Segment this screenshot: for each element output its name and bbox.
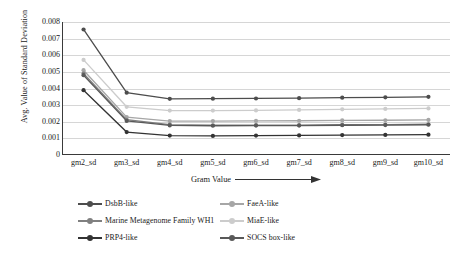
data-point: [81, 58, 85, 62]
x-axis-title-row: Gram Value: [62, 172, 450, 186]
x-axis-tick-label: gm10_sd: [414, 158, 443, 167]
data-point: [254, 133, 258, 137]
data-point: [426, 95, 430, 99]
data-point: [81, 27, 85, 31]
legend-label: DsbB-like: [105, 199, 138, 208]
legend-label: FaeA-like: [247, 199, 279, 208]
x-axis-tick-labels: gm2_sdgm3_sdgm4_sdgm5_sdgm6_sdgm7_sdgm8_…: [62, 158, 450, 172]
data-point: [211, 119, 215, 123]
legend-label: PRP4-like: [105, 233, 138, 242]
data-point: [168, 97, 172, 101]
data-point: [168, 123, 172, 127]
legend-label: Marine Metagenome Family WH1: [105, 216, 214, 225]
y-axis-tick-labels: 00.0010.0020.0030.0040.0050.0060.0070.00…: [16, 0, 60, 155]
y-axis-tick-label: 0.003: [20, 101, 60, 109]
data-point: [383, 133, 387, 137]
x-axis-tick-label: gm6_sd: [243, 158, 268, 167]
legend-item[interactable]: PRP4-like: [78, 233, 220, 242]
series-faea-like: [81, 68, 430, 123]
series-line: [84, 70, 429, 121]
data-point: [297, 119, 301, 123]
legend-label: MiaE-like: [247, 216, 279, 225]
legend-label: SOCS box-like: [247, 233, 295, 242]
x-axis-tick-label: gm7_sd: [286, 158, 311, 167]
data-point: [81, 73, 85, 77]
data-point: [81, 88, 85, 92]
x-axis-tick-label: gm8_sd: [330, 158, 355, 167]
y-axis-tick-label: 0.005: [20, 68, 60, 76]
series-dsbb-like: [81, 27, 430, 101]
data-point: [340, 96, 344, 100]
data-point: [125, 105, 129, 109]
data-point: [211, 97, 215, 101]
x-axis-tick-label: gm3_sd: [114, 158, 139, 167]
data-point: [383, 95, 387, 99]
chart-legend: DsbB-likeFaeA-likeMarine Metagenome Fami…: [78, 195, 378, 246]
data-point: [254, 96, 258, 100]
data-point: [211, 124, 215, 128]
plot-grid-area: [62, 22, 450, 155]
y-axis-tick-label: 0.006: [20, 51, 60, 59]
data-point: [297, 133, 301, 137]
legend-item[interactable]: DsbB-like: [78, 199, 220, 208]
series-line: [84, 29, 429, 98]
data-point: [383, 118, 387, 122]
data-point: [297, 96, 301, 100]
data-point: [168, 133, 172, 137]
legend-item[interactable]: MiaE-like: [220, 216, 378, 225]
data-point: [168, 109, 172, 113]
y-axis-tick-label: 0.001: [20, 134, 60, 142]
legend-item[interactable]: SOCS box-like: [220, 233, 378, 242]
legend-marker-icon: [220, 216, 244, 225]
series-lines: [62, 22, 450, 155]
data-point: [297, 108, 301, 112]
x-axis-title: Gram Value: [191, 175, 231, 184]
y-axis-tick-label: 0.004: [20, 85, 60, 93]
data-point: [125, 91, 129, 95]
data-point: [254, 119, 258, 123]
data-point: [340, 118, 344, 122]
data-point: [211, 109, 215, 113]
legend-item[interactable]: Marine Metagenome Family WH1: [78, 216, 220, 225]
data-point: [125, 130, 129, 134]
legend-item[interactable]: FaeA-like: [220, 199, 378, 208]
legend-marker-icon: [78, 216, 102, 225]
data-point: [340, 133, 344, 137]
data-point: [426, 133, 430, 137]
x-axis-tick-label: gm4_sd: [157, 158, 182, 167]
data-point: [340, 107, 344, 111]
plot-area-wrapper: Avg. Value of Standard Deviation 00.0010…: [0, 0, 465, 175]
x-axis-tick-label: gm5_sd: [200, 158, 225, 167]
data-point: [254, 108, 258, 112]
y-axis-tick-label: 0.002: [20, 118, 60, 126]
y-axis-tick-label: 0.007: [20, 35, 60, 43]
legend-marker-icon: [78, 233, 102, 242]
series-line: [84, 60, 429, 111]
legend-marker-icon: [220, 233, 244, 242]
x-axis-tick-label: gm2_sd: [71, 158, 96, 167]
data-point: [426, 123, 430, 127]
data-point: [254, 123, 258, 127]
legend-marker-icon: [220, 199, 244, 208]
data-point: [125, 119, 129, 123]
legend-marker-icon: [78, 199, 102, 208]
data-point: [297, 123, 301, 127]
data-point: [426, 106, 430, 110]
y-axis-tick-label: 0.008: [20, 18, 60, 26]
data-point: [383, 107, 387, 111]
chart-figure: Avg. Value of Standard Deviation 00.0010…: [0, 0, 465, 263]
series-prp4-like: [81, 88, 430, 138]
series-miae-like: [81, 58, 430, 113]
y-axis-tick-label: 0: [20, 151, 60, 159]
data-point: [383, 123, 387, 127]
data-point: [340, 123, 344, 127]
data-point: [426, 118, 430, 122]
right-arrow-icon: [235, 175, 321, 184]
x-axis-tick-label: gm9_sd: [373, 158, 398, 167]
data-point: [211, 134, 215, 138]
